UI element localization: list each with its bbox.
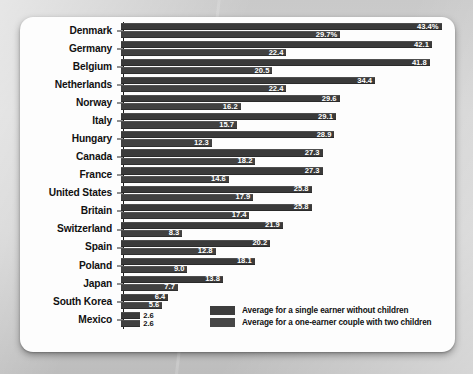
bar: 20.5	[121, 67, 272, 74]
legend-label-couple-two-children: Average for a one-earner couple with two…	[242, 318, 432, 327]
bar-value-label: 7.7	[164, 284, 175, 292]
bar: 16.2	[121, 103, 241, 110]
bar-value-label: 42.1	[414, 41, 429, 49]
bar-track: 43.4%	[121, 23, 442, 30]
bar-group: 13.87.7	[117, 275, 455, 293]
chart-row: Italy29.115.7	[20, 112, 455, 130]
category-label: Norway	[20, 98, 117, 108]
bar: 22.4	[121, 49, 286, 56]
bar-chart-plot: Denmark43.4%29.7%Germany42.122.4Belgium4…	[20, 22, 455, 347]
bar-value-label: 27.3	[305, 167, 320, 175]
bar-track: 27.3	[121, 149, 323, 156]
bar-group: 43.4%29.7%	[117, 22, 455, 40]
bar-track: 21.9	[121, 222, 283, 229]
bar-value-label: 9.0	[174, 266, 185, 274]
bar-track: 22.4	[121, 85, 286, 92]
bar-track: 18.2	[121, 158, 255, 165]
legend-label-single-earner: Average for a single earner without chil…	[242, 306, 408, 315]
chart-row: Britain25.817.4	[20, 202, 455, 220]
bar: 18.2	[121, 158, 255, 165]
category-label: Japan	[20, 279, 117, 289]
category-label: Denmark	[20, 26, 117, 36]
bar-value-label: 8.3	[169, 229, 180, 237]
bar-group: 21.98.3	[117, 221, 455, 239]
bar-value-label: 29.6	[322, 95, 337, 103]
bar-value-label: 29.1	[318, 113, 333, 121]
bar-track: 14.6	[121, 176, 229, 183]
bar-track: 5.6	[121, 302, 162, 309]
bar-track: 9.0	[121, 266, 187, 273]
bar-value-label: 25.8	[294, 203, 309, 211]
category-label: Germany	[20, 44, 117, 54]
bar-group: 27.318.2	[117, 148, 455, 166]
chart-row: United States25.817.9	[20, 184, 455, 202]
legend-item: Average for a one-earner couple with two…	[210, 318, 432, 327]
chart-row: Belgium41.820.5	[20, 58, 455, 76]
bar-group: 25.817.9	[117, 184, 455, 202]
bar: 6.4	[121, 294, 168, 301]
bar: 28.9	[121, 131, 334, 138]
category-label: Canada	[20, 152, 117, 162]
bar: 22.4	[121, 85, 286, 92]
bar-track: 17.9	[121, 194, 253, 201]
bar-value-label: 17.9	[235, 193, 250, 201]
bar-value-label: 21.9	[265, 221, 280, 229]
bar-track: 12.8	[121, 248, 216, 255]
bar-group: 42.122.4	[117, 40, 455, 58]
category-label: Belgium	[20, 62, 117, 72]
bar-group: 27.314.6	[117, 166, 455, 184]
bar: 9.0	[121, 266, 187, 273]
bar-value-label: 14.6	[211, 175, 226, 183]
bar-value-label: 16.2	[223, 103, 238, 111]
category-label: Netherlands	[20, 80, 117, 90]
category-label: Hungary	[20, 134, 117, 144]
bar-value-label: 12.8	[198, 248, 213, 256]
bar-value-label: 17.4	[232, 211, 247, 219]
category-label: Italy	[20, 116, 117, 126]
category-label: South Korea	[20, 297, 117, 307]
bar: 15.7	[121, 121, 237, 128]
chart-row: France27.314.6	[20, 166, 455, 184]
bar: 7.7	[121, 284, 178, 291]
bar-track: 22.4	[121, 49, 286, 56]
bar: 29.7%	[121, 31, 340, 38]
chart-legend: Average for a single earner without chil…	[210, 306, 432, 327]
bar-group: 34.422.4	[117, 76, 455, 94]
category-label: United States	[20, 188, 117, 198]
bar-value-label: 18.1	[237, 257, 252, 265]
bar-group: 29.115.7	[117, 112, 455, 130]
chart-row: Poland18.19.0	[20, 257, 455, 275]
bar: 25.8	[121, 204, 312, 211]
bar: 18.1	[121, 258, 255, 265]
chart-row: Switzerland21.98.3	[20, 221, 455, 239]
bar: 12.3	[121, 139, 212, 146]
bar-group: 20.212.8	[117, 239, 455, 257]
bar-value-label: 20.5	[255, 67, 270, 75]
bar: 21.9	[121, 222, 283, 229]
chart-row: Norway29.616.2	[20, 94, 455, 112]
bar: 27.3	[121, 149, 323, 156]
bar-track: 20.5	[121, 67, 272, 74]
bar-group: 41.820.5	[117, 58, 455, 76]
bar-value-label: 22.4	[269, 85, 284, 93]
bar: 41.8	[121, 59, 430, 66]
bar-value-label: 2.6	[143, 320, 154, 328]
bar-track: 2.6	[121, 312, 154, 319]
category-label: Mexico	[20, 315, 117, 325]
bar-value-label: 5.6	[149, 302, 160, 310]
bar-track: 2.6	[121, 320, 154, 327]
bar	[121, 320, 140, 327]
bar-value-label: 13.8	[205, 276, 220, 284]
bar-group: 25.817.4	[117, 202, 455, 220]
bar-value-label: 20.2	[252, 239, 267, 247]
chart-card: Denmark43.4%29.7%Germany42.122.4Belgium4…	[20, 17, 455, 352]
chart-row: Canada27.318.2	[20, 148, 455, 166]
category-label: Poland	[20, 261, 117, 271]
bar-value-label: 22.4	[269, 49, 284, 57]
bar-track: 34.4	[121, 77, 375, 84]
bar-track: 25.8	[121, 204, 312, 211]
bar-track: 20.2	[121, 240, 270, 247]
bar: 14.6	[121, 176, 229, 183]
bar-track: 29.7%	[121, 31, 340, 38]
bar: 17.4	[121, 212, 249, 219]
